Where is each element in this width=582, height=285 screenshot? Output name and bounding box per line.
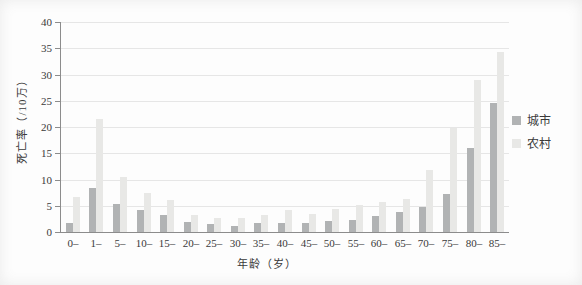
y-tick-mark (55, 127, 61, 128)
y-tick-mark (55, 48, 61, 49)
bar-urban (254, 223, 261, 232)
y-tick-label: 0 (47, 225, 53, 239)
y-tick-mark (55, 206, 61, 207)
y-tick-label: 20 (41, 120, 52, 134)
y-tick-label: 25 (41, 94, 52, 108)
bar-rural (261, 215, 268, 232)
y-tick-mark (55, 22, 61, 23)
legend-label: 城市 (527, 111, 551, 129)
bar-urban (137, 210, 144, 232)
x-axis-title: 年龄（岁） (237, 255, 297, 271)
bar-rural (426, 170, 433, 232)
grid-line (61, 48, 509, 49)
grid-line (61, 127, 509, 128)
bar-urban (419, 207, 426, 232)
y-tick-label: 35 (41, 41, 52, 55)
bar-rural (285, 210, 292, 232)
y-axis-title: 死亡率（/10万） (13, 74, 29, 163)
y-tick-mark (55, 75, 61, 76)
bar-rural (214, 218, 221, 232)
bar-urban (66, 223, 73, 232)
bar-urban (302, 223, 309, 232)
y-tick-mark (55, 180, 61, 181)
y-tick-label: 30 (41, 68, 52, 82)
bar-urban (113, 204, 120, 232)
bar-urban (467, 148, 474, 232)
bar-rural (497, 52, 504, 232)
bar-urban (325, 221, 332, 232)
bar-rural (379, 202, 386, 232)
legend-item-urban: 城市 (512, 113, 551, 127)
bar-rural (120, 177, 127, 232)
x-tick-label: 85– (481, 237, 513, 249)
bar-urban (160, 215, 167, 232)
bar-rural (73, 197, 80, 232)
bar-urban (207, 224, 214, 232)
bar-rural (474, 80, 481, 232)
grid-line (61, 101, 509, 102)
y-tick-label: 15 (41, 146, 52, 160)
legend-swatch-urban (512, 116, 521, 125)
grid-line (61, 180, 509, 181)
bar-urban (396, 212, 403, 232)
bar-chart-figure: 05101520253035400–1–5–10–15–20–25–30–35–… (0, 0, 582, 285)
bar-rural (332, 209, 339, 232)
y-tick-mark (55, 153, 61, 154)
bar-rural (450, 128, 457, 232)
plot-area: 05101520253035400–1–5–10–15–20–25–30–35–… (60, 22, 509, 233)
y-tick-mark (55, 101, 61, 102)
bar-rural (96, 119, 103, 232)
bar-rural (191, 215, 198, 232)
legend-item-rural: 农村 (512, 136, 551, 150)
grid-line (61, 153, 509, 154)
y-tick-mark (55, 232, 61, 233)
bar-rural (167, 200, 174, 232)
bar-urban (184, 222, 191, 232)
bar-rural (309, 214, 316, 232)
bar-urban (349, 220, 356, 232)
bar-urban (231, 226, 238, 232)
bar-urban (89, 188, 96, 232)
grid-line (61, 206, 509, 207)
y-tick-label: 10 (41, 173, 52, 187)
y-tick-label: 5 (47, 199, 53, 213)
legend-label: 农村 (527, 134, 551, 152)
bar-rural (356, 205, 363, 232)
bar-rural (403, 199, 410, 232)
grid-line (61, 22, 509, 23)
legend: 城市农村 (512, 113, 551, 159)
bar-urban (278, 223, 285, 232)
bar-rural (238, 218, 245, 232)
bar-rural (144, 193, 151, 232)
legend-swatch-rural (512, 139, 521, 148)
grid-line (61, 75, 509, 76)
bar-urban (490, 103, 497, 232)
bar-urban (443, 194, 450, 232)
bar-urban (372, 216, 379, 232)
y-tick-label: 40 (41, 15, 52, 29)
